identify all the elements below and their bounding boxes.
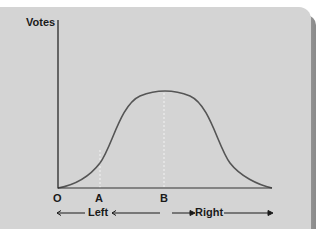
point-b-label: B: [160, 193, 168, 204]
y-axis-label: Votes: [26, 17, 55, 28]
right-arrow: [172, 211, 195, 216]
origin-label: O: [53, 193, 62, 204]
right-label: Right: [195, 207, 223, 218]
bell-curve: [58, 91, 272, 188]
left-arrow-2: [112, 211, 160, 216]
left-arrow: [57, 211, 85, 216]
right-arrow-2: [224, 211, 273, 216]
left-label: Left: [88, 207, 108, 218]
point-a-label: A: [95, 193, 103, 204]
